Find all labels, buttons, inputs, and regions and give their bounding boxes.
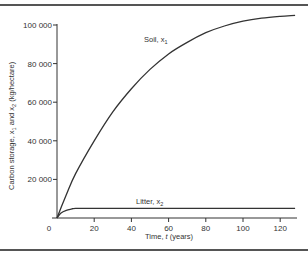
y-axis-title: Carbon storage, x1 and x2 (kg/hectare)	[7, 61, 17, 190]
x-tick-label: 120	[274, 224, 288, 233]
soil-curve	[57, 15, 295, 218]
x-tick-label: 0	[47, 224, 52, 233]
x-tick-label: 40	[127, 224, 136, 233]
y-ticks: 20 00040 00060 00080 000100 000	[23, 21, 57, 184]
chart: 20 00040 00060 00080 000100 000 02040608…	[0, 0, 308, 256]
x-tick-label: 20	[90, 224, 99, 233]
y-tick-label: 40 000	[28, 137, 53, 146]
y-tick-label: 60 000	[28, 98, 53, 107]
y-tick-label: 100 000	[23, 21, 52, 30]
soil-label: Soil, x1	[144, 35, 168, 45]
x-ticks: 020406080100120	[47, 218, 288, 233]
x-tick-label: 80	[201, 224, 210, 233]
x-tick-label: 100	[236, 224, 250, 233]
y-tick-label: 80 000	[28, 60, 53, 69]
litter-label: Litter, x2	[136, 197, 163, 207]
litter-curve	[57, 208, 295, 218]
x-axis-title: Time, t (years)	[145, 232, 194, 241]
y-tick-label: 20 000	[28, 175, 53, 184]
